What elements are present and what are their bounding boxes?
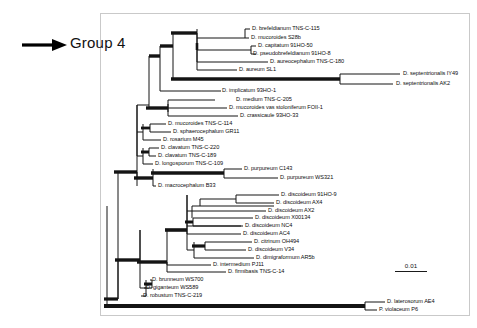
taxon-label: D. discoideum V34: [248, 247, 294, 253]
taxon-label: D. mucoroides TNS-C-114: [168, 121, 232, 127]
taxon-label: D. discoideum AX4: [276, 200, 322, 206]
taxon-label: D. sphaerocephalum GR11: [173, 129, 239, 135]
taxon-label: D. mucoroides vas stoloniferum FOII-1: [229, 105, 323, 111]
taxon-label: D. crassicaule 93HO-33: [240, 113, 298, 119]
taxon-label: D. septentrionalis AK2: [396, 81, 450, 87]
taxon-label: D. purpureum WS321: [280, 175, 333, 181]
taxon-label: D. discoideum X00134: [255, 215, 310, 221]
taxon-label: D. aureum SL1: [239, 67, 276, 73]
taxon-label: D. medium TNS-C-205: [236, 97, 292, 103]
taxon-label: D. aureocephalum TNS-C-180: [270, 59, 344, 65]
taxon-label: D. septentrionalis IY49: [403, 71, 458, 77]
scale-bar: 0.01: [387, 262, 435, 272]
taxon-label: D. discoideum NC4: [245, 223, 292, 229]
taxon-label: D. laterosorum AE4: [387, 299, 435, 305]
taxon-label: D. longosporum TNS-C-109: [155, 161, 223, 167]
taxon-label: D. clavatum TNS-C-220: [161, 145, 219, 151]
taxon-label: D. discoideum AC4: [243, 231, 290, 237]
taxon-label: D. firmibasis TNS-C-14: [228, 269, 284, 275]
taxon-label: D. robustum TNS-C-219: [143, 293, 202, 299]
taxon-label: D. discoideum 91HO-9: [281, 192, 337, 198]
taxon-label: D. implicatum 93HO-1: [222, 88, 276, 94]
taxon-label: D. macrocephalum B33: [158, 183, 215, 189]
taxon-label: D. discoideum AX2: [268, 208, 314, 214]
taxon-label: D. pseudobrefeldianum 91HO-8: [253, 51, 331, 57]
taxon-label: D. clavatum TNS-C-189: [158, 153, 216, 159]
taxon-label: D. mucoroides S28b: [251, 35, 301, 41]
taxon-label: D. citrinum OH494: [254, 239, 299, 245]
taxon-label: D. purpureum C143: [244, 166, 292, 172]
taxon-label: D. dimigraformum AR5b: [256, 255, 315, 261]
taxon-label: D. capitatum 91HO-50: [258, 43, 313, 49]
figure-screenshot: Group 4: [0, 0, 477, 328]
taxon-label: D. rosarium M45: [163, 137, 204, 143]
taxon-label: D. intermedium PJ11: [213, 262, 264, 268]
phylogenetic-tree: [0, 0, 477, 328]
taxon-label: D. giganteum WS589: [146, 285, 198, 291]
taxon-label: D. brefeldianum TNS-C-115: [252, 26, 320, 32]
scale-bar-label: 0.01: [387, 262, 435, 269]
taxon-label: D. brunneum WS700: [152, 277, 203, 283]
taxon-label: P. violaceum P6: [379, 307, 418, 313]
scale-bar-rule: [395, 271, 427, 273]
